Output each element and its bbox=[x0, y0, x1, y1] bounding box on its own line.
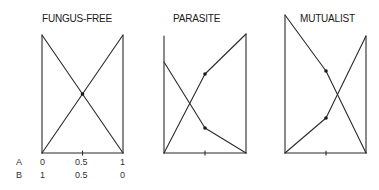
row-label-a: A bbox=[16, 157, 22, 167]
data-point-marker bbox=[324, 116, 328, 120]
tick-b-0: 1 bbox=[40, 170, 45, 180]
line-rising bbox=[164, 34, 246, 153]
tick-b-2: 0 bbox=[120, 170, 125, 180]
data-point-marker bbox=[203, 126, 207, 130]
data-point-marker bbox=[203, 72, 207, 76]
diagram-canvas bbox=[0, 0, 379, 190]
row-label-b: B bbox=[16, 170, 22, 180]
data-point-marker bbox=[324, 69, 328, 73]
line-falling bbox=[285, 15, 366, 153]
tick-a-2: 1 bbox=[120, 157, 125, 167]
panel-parasite bbox=[164, 34, 246, 155]
line-rising bbox=[285, 36, 366, 153]
tick-a-1: 0.5 bbox=[75, 157, 88, 167]
tick-b-1: 0.5 bbox=[75, 170, 88, 180]
data-point-marker bbox=[81, 92, 85, 96]
panel-mutualist bbox=[285, 15, 366, 155]
tick-a-0: 0 bbox=[40, 157, 45, 167]
